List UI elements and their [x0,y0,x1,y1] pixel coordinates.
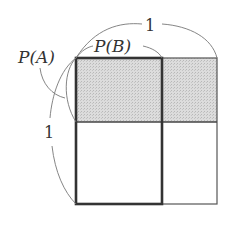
left-one-label: 1 [44,123,54,142]
probability-diagram: P(A) P(B) 1 1 [0,0,235,227]
top-one-label: 1 [145,16,155,35]
left-unit-arc-bottom [52,146,76,204]
shaded-region-a-and-b [76,58,162,122]
p-b-arc-right [143,46,162,58]
shaded-region-a-and-not-b [162,58,217,122]
p-a-pointer [40,68,65,98]
diagram-canvas: P(A) P(B) 1 1 [0,0,235,227]
p-a-label: P(A) [17,47,55,67]
p-b-arc-left [76,46,93,58]
p-a-arc [66,58,76,122]
left-unit-arc-top [50,58,76,118]
p-b-label: P(B) [93,36,131,56]
top-unit-arc-right [162,24,217,58]
